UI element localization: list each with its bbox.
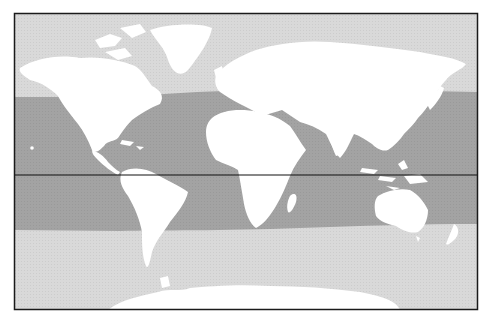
world-map <box>0 0 493 323</box>
map-svg <box>0 0 493 323</box>
